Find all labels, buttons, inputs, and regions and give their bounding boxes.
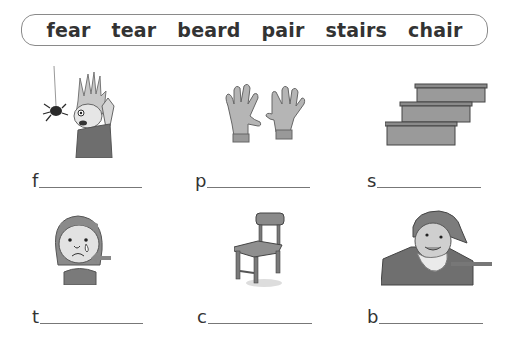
gloves-picture: [220, 84, 308, 144]
answer-line-pair[interactable]: p: [195, 172, 310, 190]
first-letter: b: [367, 308, 378, 326]
blank-line[interactable]: [207, 187, 310, 188]
blank-line[interactable]: [39, 187, 142, 188]
answer-line-chair[interactable]: c: [197, 308, 312, 326]
bearded-man-picture: [381, 207, 493, 287]
word-bank-item: chair: [408, 19, 463, 41]
word-bank-item: fear: [46, 19, 90, 41]
blank-line[interactable]: [208, 323, 312, 324]
answer-line-beard[interactable]: b: [367, 308, 483, 326]
first-letter: t: [32, 308, 39, 326]
word-bank-item: beard: [177, 19, 240, 41]
first-letter: c: [197, 308, 207, 326]
scared-boy-picture: [28, 66, 118, 158]
blank-line[interactable]: [377, 187, 481, 188]
answer-line-fear[interactable]: f: [32, 172, 142, 190]
word-bank-item: tear: [111, 19, 156, 41]
answer-line-tear[interactable]: t: [32, 308, 143, 326]
stairs-picture: [385, 82, 489, 146]
first-letter: p: [195, 172, 206, 190]
word-bank-item: pair: [262, 19, 305, 41]
answer-line-stairs[interactable]: s: [367, 172, 481, 190]
blank-line[interactable]: [40, 323, 143, 324]
word-bank: fear tear beard pair stairs chair: [21, 14, 488, 46]
word-bank-item: stairs: [326, 19, 388, 41]
first-letter: s: [367, 172, 376, 190]
chair-picture: [234, 211, 286, 289]
blank-line[interactable]: [379, 323, 483, 324]
first-letter: f: [32, 172, 38, 190]
crying-girl-picture: [46, 210, 121, 285]
